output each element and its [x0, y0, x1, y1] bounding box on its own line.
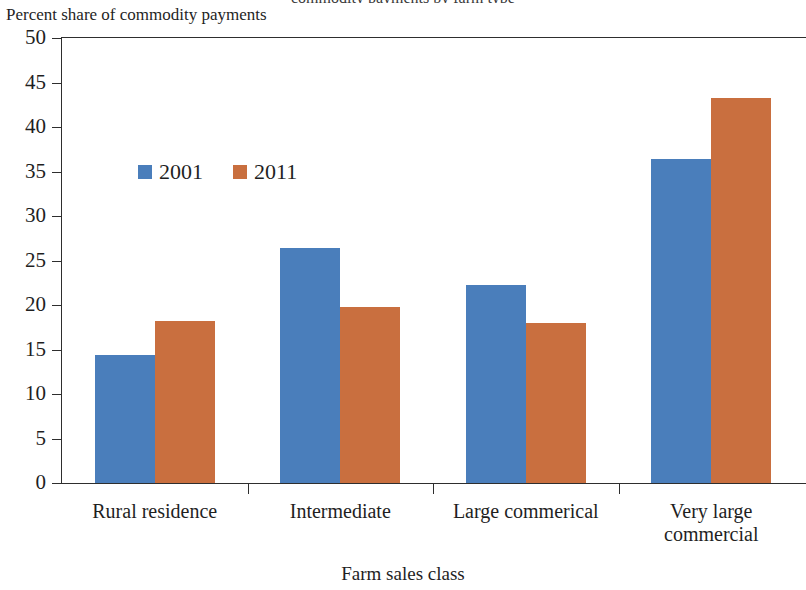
bar-2011-very-large-commercial [711, 98, 771, 483]
x-category-label: Very largecommercial [619, 500, 805, 546]
y-tick-label: 35 [0, 161, 46, 182]
y-tick-label: 10 [0, 383, 46, 404]
y-tick-mark [52, 439, 62, 440]
bar-chart-figure: commodity payments by farm type Percent … [0, 0, 806, 590]
bar-2001-intermediate [280, 248, 340, 483]
y-tick-mark [52, 127, 62, 128]
legend-swatch-icon [233, 165, 247, 179]
y-tick-label: 0 [0, 472, 46, 493]
y-axis-caption: Percent share of commodity payments [6, 5, 267, 25]
y-tick-mark [52, 172, 62, 173]
legend-swatch-icon [138, 165, 152, 179]
legend-label: 2001 [159, 161, 203, 183]
bar-2011-rural-residence [155, 321, 215, 483]
x-axis-caption: Farm sales class [0, 563, 806, 585]
y-tick-label: 5 [0, 428, 46, 449]
x-tick-mark [433, 483, 434, 494]
x-tick-mark [619, 483, 620, 494]
bar-2011-large-commerical [526, 323, 586, 483]
legend-item-2011: 2011 [233, 161, 297, 183]
y-tick-mark [52, 394, 62, 395]
y-tick-label: 25 [0, 250, 46, 271]
bar-2001-large-commerical [466, 285, 526, 483]
bars-layer [62, 38, 804, 483]
x-tick-mark [248, 483, 249, 494]
x-category-label: Intermediate [248, 500, 434, 523]
x-category-label: Rural residence [62, 500, 248, 523]
bar-2011-intermediate [340, 307, 400, 483]
bar-2001-very-large-commercial [651, 159, 711, 483]
y-tick-label: 30 [0, 205, 46, 226]
y-tick-label: 40 [0, 116, 46, 137]
legend-item-2001: 2001 [138, 161, 203, 183]
y-tick-mark [52, 350, 62, 351]
y-tick-label: 45 [0, 72, 46, 93]
x-category-label: Large commerical [433, 500, 619, 523]
y-tick-mark [52, 483, 62, 484]
y-tick-mark [52, 261, 62, 262]
legend-label: 2011 [254, 161, 297, 183]
chart-legend: 20012011 [138, 161, 297, 183]
y-tick-mark [52, 83, 62, 84]
y-tick-label: 20 [0, 294, 46, 315]
bar-2001-rural-residence [95, 355, 155, 483]
y-tick-label: 15 [0, 339, 46, 360]
y-tick-label: 50 [0, 27, 46, 48]
y-tick-mark [52, 216, 62, 217]
chart-title: commodity payments by farm type [0, 0, 806, 3]
y-tick-mark [52, 305, 62, 306]
y-tick-mark [52, 38, 62, 39]
